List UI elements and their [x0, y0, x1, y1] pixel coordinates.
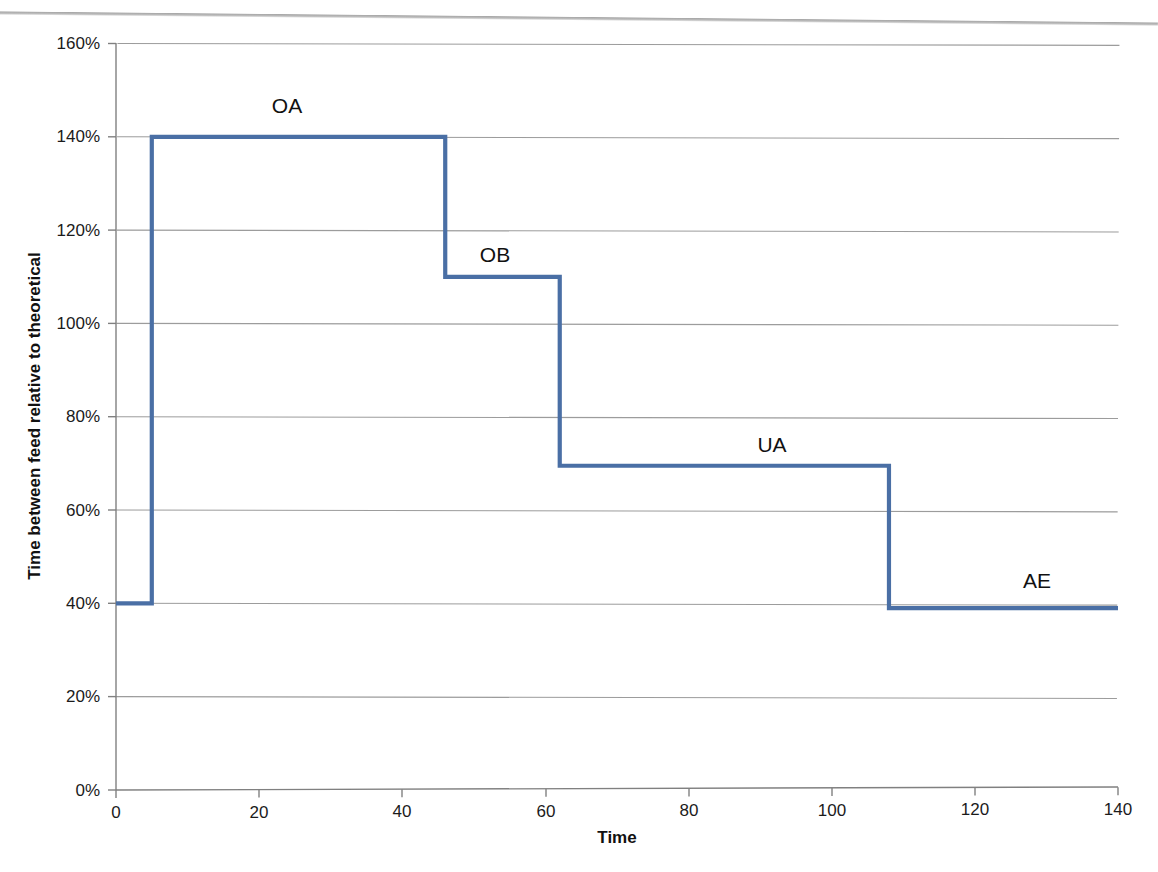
y-axis-title: Time between feed relative to theoretica…	[25, 252, 44, 580]
y-tick-label-160: 160%	[57, 34, 100, 53]
series-label-ae: AE	[1023, 569, 1051, 592]
y-tick-label-80: 80%	[66, 407, 100, 426]
x-tick-label-100: 100	[818, 801, 846, 820]
y-tick-label-40: 40%	[66, 594, 100, 613]
series-label-ua: UA	[757, 433, 786, 456]
step-chart: 160% 140% 120% 100% 80% 60% 40% 20% 0% 0…	[0, 0, 1158, 872]
series-label-ob: OB	[480, 243, 510, 266]
x-tick-label-60: 60	[537, 802, 556, 821]
x-axis-title: Time	[597, 828, 636, 847]
x-tick-label-80: 80	[680, 801, 699, 820]
y-tick-label-20: 20%	[66, 687, 100, 706]
x-tick-label-40: 40	[393, 802, 412, 821]
x-tick-label-20: 20	[250, 803, 269, 822]
x-tick-label-120: 120	[961, 800, 989, 819]
y-tick-label-60: 60%	[66, 501, 100, 520]
x-tick-label-140: 140	[1104, 800, 1132, 819]
y-tick-label-140: 140%	[57, 127, 100, 146]
y-tickmarks	[108, 44, 116, 791]
y-tick-label-100: 100%	[57, 314, 100, 333]
chart-container: 160% 140% 120% 100% 80% 60% 40% 20% 0% 0…	[0, 0, 1158, 872]
x-tick-label-0: 0	[111, 803, 120, 822]
y-tick-label-0: 0%	[75, 781, 100, 800]
series-label-oa: OA	[272, 94, 302, 117]
y-tick-label-120: 120%	[57, 221, 100, 240]
